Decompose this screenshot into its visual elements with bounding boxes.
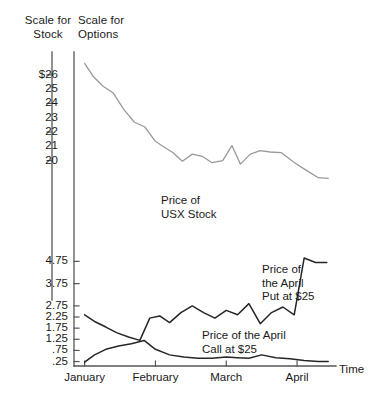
options-tick-label: 4.75 — [28, 255, 68, 267]
stock-tick-label: 22 — [18, 126, 58, 138]
stock-tick-label: 20 — [18, 155, 58, 167]
stock-tick-label: $26 — [18, 69, 58, 81]
options-tick-label: 3.75 — [28, 278, 68, 290]
annotation-april-put: Price of the April Put at $25 — [262, 263, 314, 304]
stock-tick-label: 25 — [18, 83, 58, 95]
options-tick-label: .25 — [28, 356, 68, 368]
stock-tick-label: 24 — [18, 97, 58, 109]
annotation-usx-stock: Price of USX Stock — [161, 194, 217, 221]
annotation-april-call: Price of the April Call at $25 — [202, 329, 286, 356]
stock-tick-label: 23 — [18, 112, 58, 124]
time-axis-label: Time — [339, 363, 364, 375]
chart-figure: Scale for Stock Scale for Options $26252… — [0, 0, 369, 407]
series-line-usx-stock — [85, 63, 329, 178]
x-axis-tick-label: April — [247, 371, 347, 383]
stock-tick-label: 21 — [18, 140, 58, 152]
